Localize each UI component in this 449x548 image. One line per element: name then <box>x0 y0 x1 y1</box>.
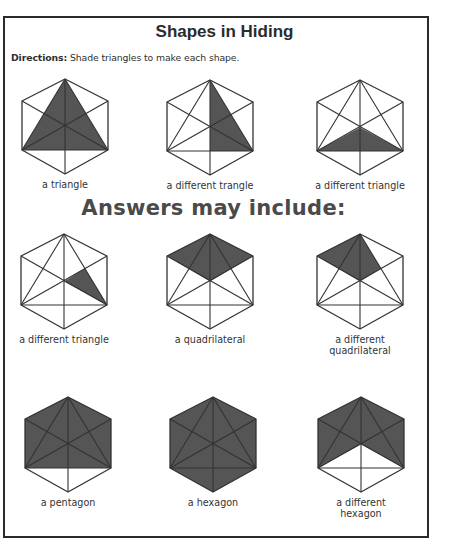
directions: Directions: Shade triangles to make each… <box>11 52 239 63</box>
caption-line: quadrilateral <box>285 345 435 356</box>
hexagon-diagram <box>315 232 407 332</box>
caption-line: a different <box>286 497 436 508</box>
figure-caption: a hexagon <box>138 497 288 508</box>
answers-heading: Answers may include: <box>0 196 427 220</box>
directions-text: Shade triangles to make each shape. <box>67 52 239 63</box>
hexagon-diagram <box>168 395 260 495</box>
hexagon-diagram <box>19 232 111 332</box>
figure-caption: a quadrilateral <box>135 334 285 345</box>
hexagon-diagram <box>23 395 115 495</box>
hexagon-diagram <box>165 78 257 178</box>
worksheet-title: Shapes in Hiding <box>0 22 449 42</box>
figure-caption: a different trangle <box>135 180 285 191</box>
hexagon-diagram <box>315 78 407 178</box>
figure-caption: a differentquadrilateral <box>285 334 435 356</box>
hexagon-diagram <box>20 77 112 177</box>
directions-label: Directions: <box>11 52 67 63</box>
figure-caption: a triangle <box>0 179 140 190</box>
shaded-region <box>64 269 107 305</box>
figure-caption: a pentagon <box>0 497 143 508</box>
figure-caption: a differenthexagon <box>286 497 436 519</box>
caption-line: a different <box>285 334 435 345</box>
hexagon-diagram <box>165 232 257 332</box>
caption-line: hexagon <box>286 508 436 519</box>
figure-caption: a different triangle <box>285 180 435 191</box>
hexagon-diagram <box>316 395 408 495</box>
figure-caption: a different triangle <box>0 334 139 345</box>
